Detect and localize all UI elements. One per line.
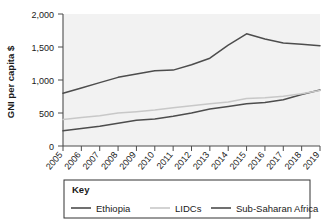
y-tick-label: 0	[49, 142, 54, 152]
y-tick-group-1500: 1,500	[31, 43, 63, 53]
x-tick-label: 2013	[191, 150, 212, 172]
x-tick-label: 2014	[209, 150, 230, 172]
x-tick-marks	[63, 146, 320, 151]
x-tick-labels: 2005200620072008200920102011201220132014…	[44, 150, 322, 172]
legend: Key Ethiopia LIDCs Sub-Saharan Africa	[64, 180, 319, 218]
x-tick-label: 2008	[99, 150, 120, 172]
y-axis-title: GNI per capita $	[5, 45, 16, 118]
gni-per-capita-line-chart: GNI per capita $ 0 500 1,000 1,500	[0, 0, 328, 224]
x-tick-label: 2019	[301, 150, 322, 172]
y-tick-group-500: 500	[39, 109, 63, 119]
y-tick-label: 500	[39, 109, 54, 119]
x-tick-label: 2017	[264, 150, 285, 172]
y-tick-label: 1,500	[31, 43, 54, 53]
legend-label-lidcs: LIDCs	[175, 203, 202, 214]
legend-label-sub-saharan-africa: Sub-Saharan Africa	[236, 203, 319, 214]
x-tick-label: 2010	[136, 150, 157, 172]
y-tick-group-1000: 1,000	[31, 76, 63, 86]
x-tick-label: 2009	[117, 150, 138, 172]
x-tick-label: 2007	[81, 150, 102, 172]
x-axis: 2005200620072008200920102011201220132014…	[44, 146, 322, 172]
x-tick-label: 2012	[172, 150, 193, 172]
x-tick-label: 2006	[62, 150, 83, 172]
x-tick-label: 2016	[246, 150, 267, 172]
chart-figure: GNI per capita $ 0 500 1,000 1,500	[0, 0, 328, 224]
y-tick-label: 2,000	[31, 10, 54, 20]
x-tick-label: 2005	[44, 150, 65, 172]
y-tick-group-2000: 2,000	[31, 10, 63, 20]
y-axis: 0 500 1,000 1,500 2,000	[31, 10, 63, 152]
x-tick-label: 2011	[155, 150, 175, 171]
legend-title: Key	[72, 184, 90, 195]
y-tick-label: 1,000	[31, 76, 54, 86]
legend-label-ethiopia: Ethiopia	[96, 203, 131, 214]
x-tick-label: 2018	[283, 150, 304, 172]
x-tick-label: 2015	[228, 150, 249, 172]
